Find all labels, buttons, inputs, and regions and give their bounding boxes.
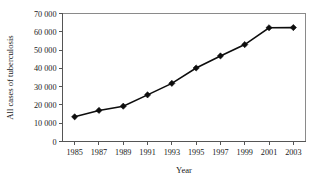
plot-frame — [63, 14, 306, 142]
data-point-marker — [120, 103, 126, 109]
x-tick-label: 1987 — [91, 148, 107, 157]
y-tick-label: 50 000 — [34, 46, 57, 55]
data-point-marker — [96, 107, 102, 113]
y-tick-label: 60 000 — [34, 28, 57, 37]
series-line — [75, 28, 294, 117]
x-tick-label: 2001 — [261, 148, 277, 157]
x-tick-label: 1989 — [115, 148, 131, 157]
y-tick-label: 40 000 — [34, 64, 57, 73]
x-tick-label: 1985 — [66, 148, 82, 157]
x-tick-label: 1997 — [212, 148, 228, 157]
x-tick-label: 1993 — [164, 148, 180, 157]
x-tick-label: 1995 — [188, 148, 204, 157]
x-tick-label: 2003 — [285, 148, 301, 157]
data-point-marker — [72, 114, 78, 120]
chart-figure: 010 00020 00030 00040 00050 00060 00070 … — [0, 0, 319, 191]
y-tick-label: 0 — [52, 138, 56, 147]
y-tick-label: 70 000 — [34, 10, 57, 19]
line-chart: 010 00020 00030 00040 00050 00060 00070 … — [0, 0, 319, 191]
x-axis-title: Year — [176, 165, 192, 175]
y-tick-label: 20 000 — [34, 101, 57, 110]
y-tick-label: 30 000 — [34, 83, 57, 92]
data-point-marker — [144, 92, 150, 98]
data-point-marker — [290, 24, 296, 30]
x-tick-label: 1991 — [139, 148, 155, 157]
y-tick-label: 10 000 — [34, 119, 57, 128]
data-point-marker — [217, 53, 223, 59]
x-tick-label: 1999 — [237, 148, 253, 157]
y-axis-title: All cases of tuberculosis — [5, 35, 15, 120]
